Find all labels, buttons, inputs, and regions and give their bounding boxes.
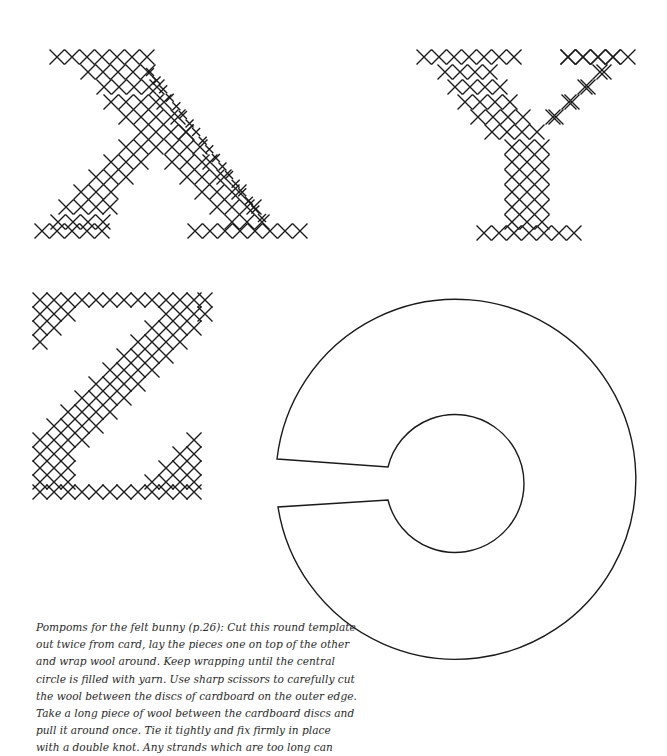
cross-stitch: [117, 293, 132, 308]
cross-stitch: [187, 485, 202, 500]
pompom-template-outline: [277, 299, 636, 659]
cross-stitch: [535, 185, 550, 200]
cross-stitch: [47, 485, 62, 500]
cross-stitch: [530, 125, 545, 140]
cross-stitch: [33, 461, 48, 476]
cross-stitch: [458, 95, 473, 110]
cross-stitch: [203, 224, 218, 239]
cross-stitch: [477, 50, 492, 65]
cross-stitch: [447, 50, 462, 65]
cross-stitch: [47, 447, 62, 462]
cross-stitch: [35, 224, 50, 239]
cross-stitch: [145, 485, 160, 500]
cross-stitch: [535, 215, 550, 230]
cross-stitch: [159, 85, 167, 93]
cross-stitch: [59, 200, 74, 215]
cross-stitch: [621, 50, 636, 65]
cross-stitch: [47, 461, 62, 476]
cross-stitch: [180, 140, 195, 155]
cross-stitch: [103, 363, 118, 378]
cross-stitch: [173, 485, 188, 500]
cross-stitch: [104, 95, 119, 110]
cross-stitch: [567, 226, 582, 241]
cross-stitch: [80, 50, 95, 65]
cross-stitch: [61, 405, 76, 420]
cross-stitch: [471, 110, 486, 125]
cross-stitch: [486, 110, 501, 125]
cross-stitch: [145, 335, 160, 350]
cross-stitch: [131, 293, 146, 308]
cross-stitch: [483, 65, 498, 80]
cross-stitch: [33, 307, 48, 322]
cross-stitch: [117, 349, 132, 364]
cross-stitch: [74, 185, 89, 200]
cross-stitch: [89, 391, 104, 406]
cross-stitch: [505, 170, 520, 185]
cross-stitch: [104, 155, 119, 170]
cross-stitch: [117, 363, 132, 378]
cross-stitch: [255, 215, 270, 230]
cross-stitch: [520, 200, 535, 215]
cross-stitch: [47, 321, 62, 336]
cross-stitch: [103, 293, 118, 308]
cross-stitch: [468, 65, 483, 80]
cross-stitch: [173, 335, 188, 350]
cross-stitch: [75, 293, 90, 308]
cross-stitch: [65, 50, 80, 65]
cross-stitch: [89, 185, 104, 200]
cross-stitch: [61, 307, 76, 322]
cross-stitch: [89, 200, 104, 215]
cross-stitch: [187, 433, 202, 448]
cross-stitch: [75, 433, 90, 448]
cross-stitch: [501, 110, 516, 125]
cross-stitch: [159, 485, 174, 500]
cross-stitch: [145, 349, 160, 364]
cross-stitch: [173, 307, 188, 322]
cross-stitch: [537, 226, 552, 241]
cross-stitch: [172, 102, 180, 110]
cross-stitch: [485, 125, 500, 140]
cross-stitch: [89, 293, 104, 308]
cross-stitch: [258, 214, 266, 222]
cross-stitch: [126, 65, 141, 80]
cross-stitch: [159, 349, 174, 364]
cross-stitch: [159, 321, 174, 336]
cross-stitch: [180, 170, 195, 185]
cross-stitch: [210, 170, 225, 185]
cross-stitch: [593, 65, 608, 80]
cross-stitch: [463, 80, 478, 95]
cross-stitch: [61, 485, 76, 500]
cross-stitch: [145, 321, 160, 336]
cross-stitch: [61, 293, 76, 308]
cross-stitch: [33, 335, 48, 350]
cross-stitch: [535, 140, 550, 155]
cross-stitch: [516, 110, 531, 125]
cross-stitch: [104, 170, 119, 185]
cross-stitch: [562, 95, 577, 110]
cross-stitch: [125, 50, 140, 65]
cross-stitch: [117, 485, 132, 500]
cross-stitch: [549, 110, 564, 125]
cross-stitch: [217, 170, 232, 185]
cross-stitch: [507, 50, 522, 65]
cross-stitch: [195, 185, 210, 200]
cross-stitch: [134, 155, 149, 170]
cross-stitch: [33, 293, 48, 308]
cross-stitch: [50, 50, 65, 65]
cross-stitch: [117, 377, 132, 392]
cross-stitch: [140, 50, 155, 65]
cross-stitch: [65, 224, 80, 239]
cross-stitch: [187, 447, 202, 462]
cross-stitch: [131, 363, 146, 378]
cross-stitch: [507, 226, 522, 241]
cross-stitch: [520, 215, 535, 230]
cross-stitch: [492, 226, 507, 241]
cross-stitch: [47, 433, 62, 448]
cross-stitch: [50, 224, 65, 239]
cross-stitch: [515, 125, 530, 140]
caption-line: pull it around once. Tie it tightly and …: [36, 722, 376, 739]
cross-stitch: [47, 419, 62, 434]
cross-stitch: [225, 215, 240, 230]
cross-stitch: [232, 180, 240, 188]
cross-stitch: [505, 200, 520, 215]
